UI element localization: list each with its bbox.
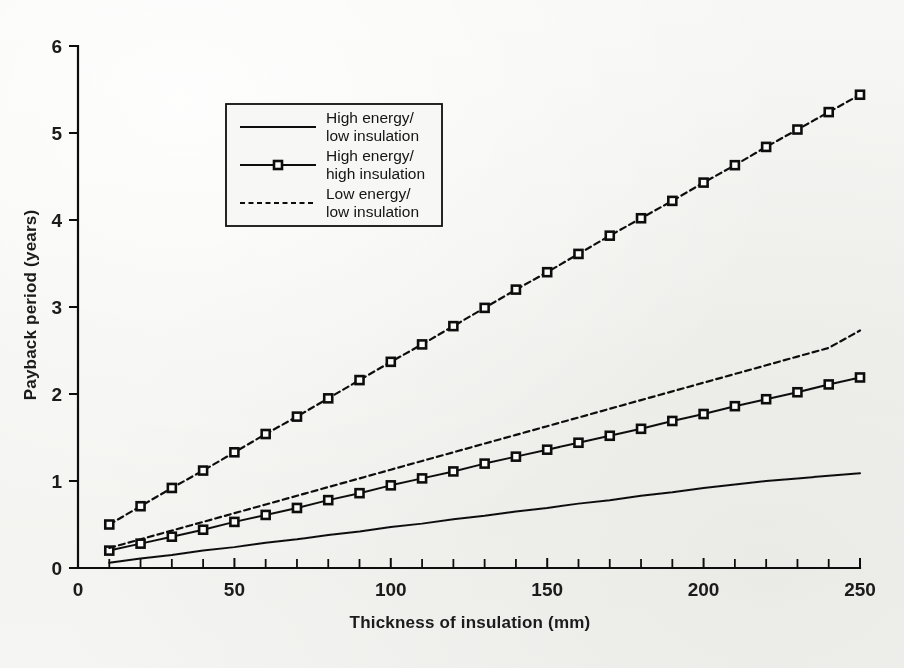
series-marker	[793, 388, 801, 396]
series-marker	[199, 467, 207, 475]
legend-label-line1: High energy/	[326, 109, 415, 126]
series-marker	[512, 286, 520, 294]
series-marker	[543, 446, 551, 454]
y-tick-label: 5	[51, 123, 62, 144]
series-marker	[262, 511, 270, 519]
series-marker	[606, 232, 614, 240]
series-marker	[356, 489, 364, 497]
series-marker	[293, 504, 301, 512]
series-marker	[574, 250, 582, 258]
series-marker	[418, 474, 426, 482]
series-marker	[574, 439, 582, 447]
series-marker	[137, 502, 145, 510]
series-marker	[230, 448, 238, 456]
payback-period-line-chart: 0123456 050100150200250 High energy/low …	[0, 0, 904, 668]
y-axis-title: Payback period (years)	[21, 210, 40, 401]
y-tick-label: 0	[51, 558, 62, 579]
series-marker	[512, 453, 520, 461]
y-tick-label: 6	[51, 36, 62, 57]
series-marker	[168, 533, 176, 541]
series-marker	[449, 322, 457, 330]
series-marker	[293, 413, 301, 421]
series-layer	[105, 91, 864, 563]
series-marker	[449, 467, 457, 475]
x-tick-label: 250	[844, 579, 876, 600]
legend-label-line2: high insulation	[326, 165, 425, 182]
series-marker	[387, 358, 395, 366]
series-marker	[762, 395, 770, 403]
series-marker	[324, 496, 332, 504]
legend-label-line1: Low energy/	[326, 185, 411, 202]
series-marker	[356, 376, 364, 384]
series-marker	[825, 108, 833, 116]
series-marker	[262, 430, 270, 438]
y-tick-label: 3	[51, 297, 62, 318]
series-marker	[387, 481, 395, 489]
series-marker	[606, 432, 614, 440]
series-marker	[668, 417, 676, 425]
legend-label-line2: low insulation	[326, 127, 419, 144]
x-tick-label: 50	[224, 579, 245, 600]
series-line	[109, 473, 860, 563]
series-marker	[700, 179, 708, 187]
series-marker	[105, 521, 113, 529]
series-marker	[543, 268, 551, 276]
chart-figure: 0123456 050100150200250 High energy/low …	[0, 0, 904, 668]
axes	[78, 46, 860, 568]
series-marker	[731, 402, 739, 410]
x-tick-label: 150	[531, 579, 563, 600]
x-axis-title: Thickness of insulation (mm)	[350, 613, 591, 632]
legend-marker-sample	[274, 161, 282, 169]
series-0	[109, 473, 860, 563]
series-marker	[700, 410, 708, 418]
series-marker	[168, 484, 176, 492]
series-marker	[637, 214, 645, 222]
series-1	[105, 373, 864, 554]
series-marker	[637, 425, 645, 433]
chart-legend: High energy/low insulationHigh energy/hi…	[226, 104, 442, 226]
series-marker	[324, 394, 332, 402]
y-axis-tick-labels: 0123456	[51, 36, 62, 579]
y-tick-label: 1	[51, 471, 62, 492]
x-tick-label: 100	[375, 579, 407, 600]
legend-label-line2: low insulation	[326, 203, 419, 220]
series-marker	[762, 143, 770, 151]
x-tick-label: 0	[73, 579, 84, 600]
series-marker	[199, 526, 207, 534]
series-marker	[481, 304, 489, 312]
series-marker	[825, 380, 833, 388]
series-marker	[668, 197, 676, 205]
y-tick-label: 2	[51, 384, 62, 405]
series-marker	[230, 518, 238, 526]
series-marker	[793, 126, 801, 134]
series-marker	[481, 460, 489, 468]
series-marker	[731, 161, 739, 169]
y-tick-label: 4	[51, 210, 62, 231]
series-marker	[856, 91, 864, 99]
series-marker	[418, 340, 426, 348]
x-tick-label: 200	[688, 579, 720, 600]
x-axis-tick-labels: 050100150200250	[73, 579, 876, 600]
legend-label-line1: High energy/	[326, 147, 415, 164]
series-marker	[856, 373, 864, 381]
